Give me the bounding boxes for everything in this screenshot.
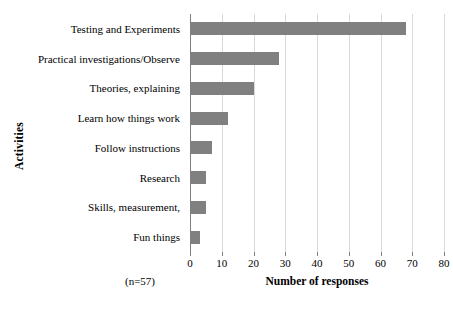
x-axis-ticks: 01020304050607080: [190, 252, 444, 272]
y-axis-tick-label: Research: [18, 163, 185, 193]
plot-area: [190, 14, 444, 252]
x-tick-label: 20: [248, 257, 259, 269]
bar-row: [190, 163, 444, 193]
x-tick-label: 70: [407, 257, 418, 269]
x-tick-label: 30: [280, 257, 291, 269]
y-axis-tick-labels: Testing and Experiments Practical invest…: [18, 14, 185, 252]
bar: [190, 112, 228, 125]
bar-chart: Activities Testing and Experiments Pract…: [0, 0, 453, 312]
bar-row: [190, 74, 444, 104]
x-tick-mark: [285, 252, 286, 256]
x-tick-label: 10: [216, 257, 227, 269]
x-tick-mark: [254, 252, 255, 256]
bar-row: [190, 193, 444, 223]
bar: [190, 82, 254, 95]
x-tick-label: 80: [439, 257, 450, 269]
x-tick-label: 0: [187, 257, 193, 269]
bar: [190, 52, 279, 65]
x-tick-mark: [412, 252, 413, 256]
x-tick-mark: [444, 252, 445, 256]
x-tick-mark: [317, 252, 318, 256]
y-axis-tick-label: Follow instructions: [18, 133, 185, 163]
bar: [190, 141, 212, 154]
bar: [190, 22, 406, 35]
x-tick-label: 50: [343, 257, 354, 269]
x-tick-mark: [349, 252, 350, 256]
bar-row: [190, 14, 444, 44]
x-tick-label: 60: [375, 257, 386, 269]
bar-row: [190, 133, 444, 163]
y-axis-tick-label: Skills, measurement,: [18, 193, 185, 223]
bar: [190, 201, 206, 214]
x-tick-label: 40: [312, 257, 323, 269]
x-tick-mark: [222, 252, 223, 256]
bar-row: [190, 44, 444, 74]
bar: [190, 231, 200, 244]
bar-row: [190, 222, 444, 252]
y-axis-tick-label: Learn how things work: [18, 103, 185, 133]
x-axis-title: Number of responses: [190, 275, 444, 287]
y-axis-tick-label: Testing and Experiments: [18, 14, 185, 44]
sample-size-annotation: (n=57): [95, 275, 185, 287]
gridline: [444, 14, 445, 252]
y-axis-tick-label: Practical investigations/Observe: [18, 44, 185, 74]
y-axis-tick-label: Theories, explaining: [18, 74, 185, 104]
x-tick-mark: [190, 252, 191, 256]
x-tick-mark: [381, 252, 382, 256]
bar-series: [190, 14, 444, 252]
bar-row: [190, 103, 444, 133]
bar: [190, 171, 206, 184]
y-axis-tick-label: Fun things: [18, 222, 185, 252]
